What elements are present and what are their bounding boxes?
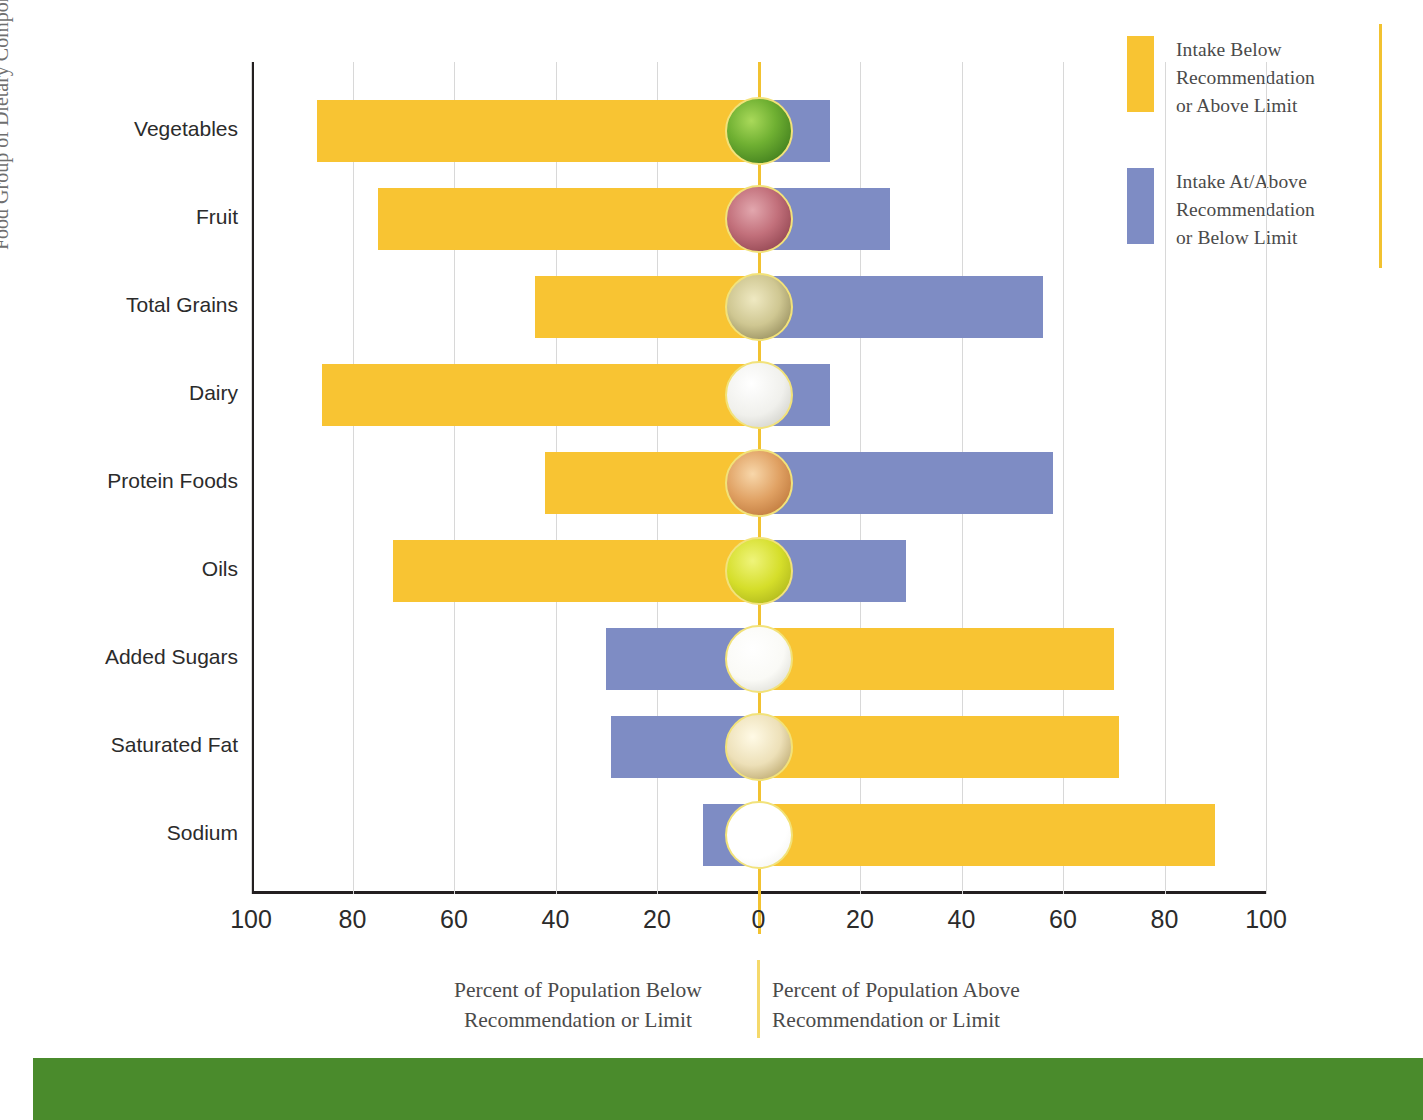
x-tick-8: 60	[1049, 905, 1077, 934]
x-tick-0: 100	[230, 905, 272, 934]
bar-row	[251, 804, 1266, 866]
sugar-icon	[725, 625, 793, 693]
plot-area	[251, 62, 1266, 894]
bar-segment-below-recommendation	[759, 804, 1216, 866]
milk-icon	[725, 361, 793, 429]
x-caption-left: Percent of Population Below Recommendati…	[398, 975, 758, 1035]
y-tick-saturated-fat: Saturated Fat	[111, 733, 238, 757]
y-tick-total-grains: Total Grains	[126, 293, 238, 317]
bar-row	[251, 276, 1266, 338]
bar-segment-below-recommendation	[322, 364, 758, 426]
grains-icon	[725, 273, 793, 341]
salt-icon	[725, 801, 793, 869]
bar-row	[251, 452, 1266, 514]
x-caption-right: Percent of Population Above Recommendati…	[772, 975, 1132, 1035]
bar-row	[251, 628, 1266, 690]
y-tick-fruit: Fruit	[196, 205, 238, 229]
x-tick-2: 60	[440, 905, 468, 934]
bar-segment-below-recommendation	[317, 100, 759, 162]
oil-icon	[725, 537, 793, 605]
x-tick-4: 20	[643, 905, 671, 934]
footer-green-band	[33, 1058, 1423, 1120]
bar-row	[251, 188, 1266, 250]
y-tick-vegetables: Vegetables	[134, 117, 238, 141]
bar-segment-below-recommendation	[759, 716, 1119, 778]
butter-icon	[725, 713, 793, 781]
bar-segment-below-recommendation	[759, 628, 1114, 690]
x-tick-3: 40	[542, 905, 570, 934]
x-tick-7: 40	[948, 905, 976, 934]
x-tick-6: 20	[846, 905, 874, 934]
x-tick-10: 100	[1245, 905, 1287, 934]
y-tick-added-sugars: Added Sugars	[105, 645, 238, 669]
y-tick-protein-foods: Protein Foods	[107, 469, 238, 493]
bar-row	[251, 540, 1266, 602]
x-tick-5: 0	[752, 905, 766, 934]
broccoli-icon	[725, 97, 793, 165]
raspberry-icon	[725, 185, 793, 253]
y-axis-title: Food Group of Dietary Component	[0, 0, 13, 250]
chart-page: Intake Below Recommendation or Above Lim…	[0, 0, 1423, 1120]
y-tick-dairy: Dairy	[189, 381, 238, 405]
bar-segment-below-recommendation	[378, 188, 759, 250]
bar-segment-below-recommendation	[393, 540, 758, 602]
y-tick-oils: Oils	[202, 557, 238, 581]
x-tick-9: 80	[1151, 905, 1179, 934]
y-tick-sodium: Sodium	[167, 821, 238, 845]
right-vertical-rule	[1379, 24, 1382, 268]
bar-segment-at-above-recommendation	[759, 452, 1053, 514]
bar-row	[251, 100, 1266, 162]
x-tick-1: 80	[339, 905, 367, 934]
bar-segment-at-above-recommendation	[759, 276, 1043, 338]
gridline-100	[1266, 62, 1267, 894]
protein-icon	[725, 449, 793, 517]
bar-row	[251, 716, 1266, 778]
bar-row	[251, 364, 1266, 426]
